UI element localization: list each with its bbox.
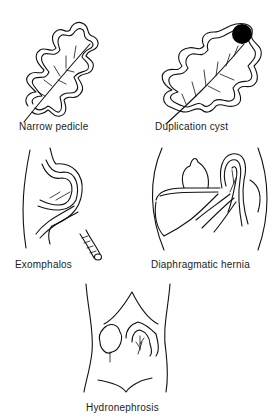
panel-narrow-pedicle: Narrow pedicle	[0, 0, 138, 140]
panel-diaphragmatic-hernia: Diaphragmatic hernia	[138, 140, 276, 280]
label-narrow-pedicle: Narrow pedicle	[19, 121, 89, 132]
panel-duplication-cyst: Duplication cyst	[138, 0, 276, 140]
label-duplication-cyst: Duplication cyst	[155, 121, 228, 132]
hydronephrosis-illustration	[60, 280, 220, 419]
duplication-cyst-illustration	[138, 0, 276, 140]
panel-exomphalos: Exomphalos	[0, 140, 138, 280]
label-diaphragmatic-hernia: Diaphragmatic hernia	[151, 259, 250, 270]
cyst-mass	[232, 24, 252, 44]
label-hydronephrosis: Hydronephrosis	[86, 402, 159, 413]
label-exomphalos: Exomphalos	[15, 259, 72, 270]
panel-hydronephrosis: Hydronephrosis	[60, 280, 220, 419]
narrow-pedicle-illustration	[0, 0, 138, 140]
